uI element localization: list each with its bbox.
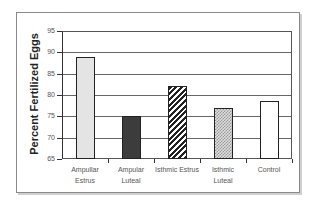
y-tick-label: 90 [36, 48, 55, 56]
gridline [63, 74, 291, 75]
y-tick [57, 138, 62, 139]
x-tick-label-line: Isthmic Estrus [154, 164, 200, 175]
x-tick-label-line: Luteal [108, 175, 154, 186]
y-tick [57, 74, 62, 75]
x-tick-label-line: Estrus [62, 175, 108, 186]
x-tick-label-line [154, 175, 200, 186]
gridline [63, 52, 291, 53]
y-tick-label: 75 [36, 112, 55, 120]
x-tick-label-line: Ampullar [62, 164, 108, 175]
y-tick-label: 70 [36, 134, 55, 142]
y-tick [57, 31, 62, 32]
x-tick-label-line: Luteal [200, 175, 246, 186]
x-tick-label: Isthmic Estrus [154, 164, 200, 186]
x-tick-label-line: Control [246, 164, 292, 175]
bar-isthmic-estrus [168, 86, 187, 159]
x-tick [292, 159, 293, 163]
bar-isthmic-luteal [214, 108, 233, 159]
x-tick [246, 159, 247, 163]
x-tick-label-line: Ampular [108, 164, 154, 175]
x-tick-label-line [246, 175, 292, 186]
x-tick [108, 159, 109, 163]
x-tick-label: Control [246, 164, 292, 186]
y-tick [57, 116, 62, 117]
y-tick-label: 85 [36, 70, 55, 78]
x-tick-label: AmpularLuteal [108, 164, 154, 186]
bar-ampullar-estrus [76, 57, 95, 159]
bar-ampular-luteal [122, 116, 141, 159]
y-tick [57, 159, 62, 160]
x-tick-label: IsthmicLuteal [200, 164, 246, 186]
y-tick [57, 95, 62, 96]
x-tick [200, 159, 201, 163]
y-tick-label: 65 [36, 155, 55, 163]
y-tick [57, 52, 62, 53]
y-tick-label: 95 [36, 27, 55, 35]
x-tick-label-line: Isthmic [200, 164, 246, 175]
bar-control [260, 101, 279, 159]
y-tick-label: 80 [36, 91, 55, 99]
x-tick [154, 159, 155, 163]
frame-shadow-right [300, 14, 302, 195]
frame-shadow-bottom [18, 193, 302, 195]
x-tick-label: AmpullarEstrus [62, 164, 108, 186]
